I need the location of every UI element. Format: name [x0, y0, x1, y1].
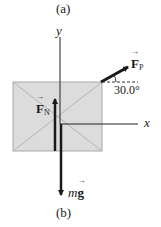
- crate-box: [13, 82, 102, 151]
- applied-force-label: FP: [131, 57, 143, 72]
- weight-label: mg: [68, 186, 84, 199]
- applied-force-arrow: [101, 67, 128, 82]
- angle-arc: [114, 75, 116, 82]
- caption-b: (b): [56, 206, 71, 219]
- x-axis-label: x: [144, 116, 150, 129]
- y-axis-label: y: [56, 24, 62, 37]
- angle-label: 30.0°: [114, 84, 140, 96]
- caption-a: (a): [56, 2, 70, 15]
- normal-force-label: FN: [36, 102, 50, 117]
